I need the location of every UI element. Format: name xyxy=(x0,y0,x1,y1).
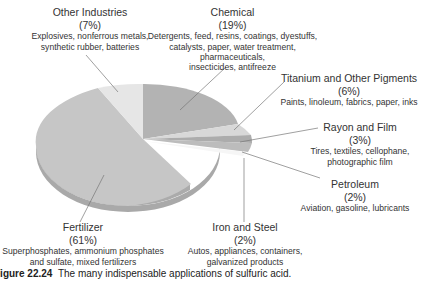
label-desc: Aviation, gasoline, lubricants xyxy=(290,203,420,213)
label-percent: (3%) xyxy=(300,134,420,147)
label-percent: (2%) xyxy=(290,191,420,204)
label-title: Iron and Steel xyxy=(180,221,310,234)
label-percent: (7%) xyxy=(20,19,160,32)
label-desc: and sulfate, mixed fertilizers xyxy=(0,257,166,267)
label-desc: Autos, appliances, containers, xyxy=(180,246,310,256)
caption-text: The many indispensable applications of s… xyxy=(58,268,291,279)
figure-caption: Figure 22.24 The many indispensable appl… xyxy=(0,268,291,279)
label-rayon: Rayon and Film (3%) Tires, textiles, cel… xyxy=(300,121,420,167)
figure-number: Figure 22.24 xyxy=(0,268,52,279)
label-desc: insecticides, antifreeze xyxy=(140,62,325,72)
label-desc: synthetic rubber, batteries xyxy=(20,42,160,52)
label-desc: catalysts, paper, water treatment, pharm… xyxy=(140,42,325,63)
label-title: Fertilizer xyxy=(0,221,166,234)
label-iron-steel: Iron and Steel (2%) Autos, appliances, c… xyxy=(180,221,310,267)
label-desc: Paints, linoleum, fabrics, paper, inks xyxy=(274,97,421,107)
label-fertilizer: Fertilizer (61%) Superphosphates, ammoni… xyxy=(0,221,166,267)
label-titanium: Titanium and Other Pigments (6%) Paints,… xyxy=(274,72,421,108)
label-chemical: Chemical (19%) Detergents, feed, resins,… xyxy=(140,6,325,72)
label-other-industries: Other Industries (7%) Explosives, nonfer… xyxy=(20,6,160,52)
label-percent: (6%) xyxy=(274,85,421,98)
label-title: Petroleum xyxy=(290,178,420,191)
label-percent: (61%) xyxy=(0,234,166,247)
label-percent: (19%) xyxy=(140,19,325,32)
label-title: Other Industries xyxy=(20,6,160,19)
label-desc: photographic film xyxy=(300,157,420,167)
label-title: Rayon and Film xyxy=(300,121,420,134)
label-desc: Detergents, feed, resins, coatings, dyes… xyxy=(140,31,325,41)
label-desc: galvanized products xyxy=(180,257,310,267)
label-desc: Tires, textiles, cellophane, xyxy=(300,146,420,156)
label-petroleum: Petroleum (2%) Aviation, gasoline, lubri… xyxy=(290,178,420,214)
label-desc: Superphosphates, ammonium phosphates xyxy=(0,246,166,256)
label-title: Titanium and Other Pigments xyxy=(274,72,421,85)
label-percent: (2%) xyxy=(180,234,310,247)
label-desc: Explosives, nonferrous metals, xyxy=(20,31,160,41)
label-title: Chemical xyxy=(140,6,325,19)
